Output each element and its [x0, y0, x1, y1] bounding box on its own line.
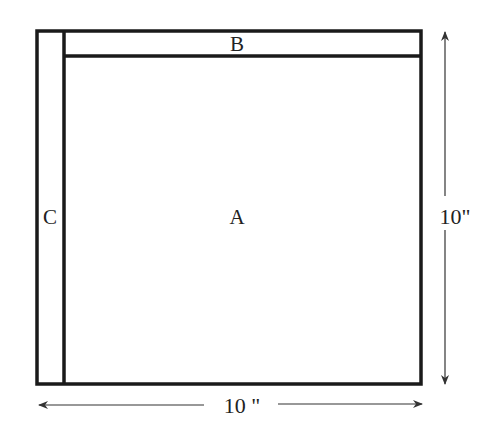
width-dimension-label: 10 " [224, 393, 260, 418]
height-dimension-label: 10" [440, 204, 471, 229]
region-b-label: B [230, 32, 244, 56]
region-a-label: A [229, 205, 245, 229]
diagram-canvas: B A C 10" 10 " [0, 0, 495, 432]
region-c-label: C [43, 205, 57, 229]
